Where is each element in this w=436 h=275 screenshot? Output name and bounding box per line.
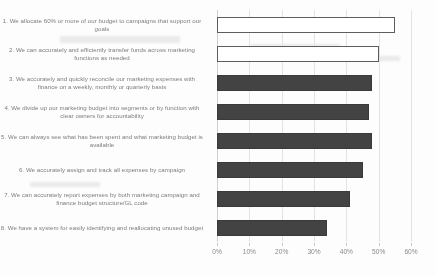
x-tick-60%	[411, 243, 412, 246]
bar-chart: 1. We allocate 60% or more of our budget…	[0, 0, 436, 275]
x-tick-10%	[249, 243, 250, 246]
category-label-text: 1. We allocate 60% or more of our budget…	[0, 17, 206, 32]
category-label-3: 3. We accurately and quickly reconcile o…	[0, 75, 206, 90]
bar-1	[217, 17, 395, 33]
x-tick-label-60%: 60%	[404, 248, 417, 255]
bar-6	[217, 162, 363, 178]
gridline-60%	[411, 10, 412, 242]
category-label-text: 7. We can accurately report expenses by …	[0, 191, 206, 206]
x-tick-0%	[217, 243, 218, 246]
category-label-text: 6. We accurately assign and track all ex…	[0, 166, 206, 174]
x-tick-label-50%: 50%	[372, 248, 385, 255]
x-tick-label-0%: 0%	[212, 248, 222, 255]
x-tick-label-10%: 10%	[243, 248, 256, 255]
x-tick-20%	[282, 243, 283, 246]
x-tick-label-30%: 30%	[307, 248, 320, 255]
category-label-4: 4. We divide up our marketing budget int…	[0, 104, 206, 119]
category-label-7: 7. We can accurately report expenses by …	[0, 191, 206, 206]
x-tick-label-20%: 20%	[275, 248, 288, 255]
category-label-2: 2. We can accurately and efficiently tra…	[0, 46, 206, 61]
category-label-5: 5. We can always see what has been spent…	[0, 133, 206, 148]
category-label-1: 1. We allocate 60% or more of our budget…	[0, 17, 206, 32]
x-tick-50%	[379, 243, 380, 246]
plot-area	[217, 10, 411, 242]
category-label-column: 1. We allocate 60% or more of our budget…	[0, 10, 212, 242]
bar-5	[217, 133, 372, 149]
category-label-8: 8. We have a system for easily identifyi…	[0, 224, 206, 232]
bar-4	[217, 104, 369, 120]
bar-8	[217, 220, 327, 236]
category-label-text: 3. We accurately and quickly reconcile o…	[0, 75, 206, 90]
bar-3	[217, 75, 372, 91]
bar-2	[217, 46, 379, 62]
bar-7	[217, 191, 350, 207]
x-tick-label-40%: 40%	[340, 248, 353, 255]
category-label-text: 8. We have a system for easily identifyi…	[0, 224, 206, 232]
gridline-50%	[379, 10, 380, 242]
x-tick-30%	[314, 243, 315, 246]
category-label-text: 4. We divide up our marketing budget int…	[0, 104, 206, 119]
category-label-text: 2. We can accurately and efficiently tra…	[0, 46, 206, 61]
x-tick-40%	[346, 243, 347, 246]
x-axis: 0%10%20%30%40%50%60%	[217, 243, 411, 269]
category-label-6: 6. We accurately assign and track all ex…	[0, 166, 206, 174]
category-label-text: 5. We can always see what has been spent…	[0, 133, 206, 148]
